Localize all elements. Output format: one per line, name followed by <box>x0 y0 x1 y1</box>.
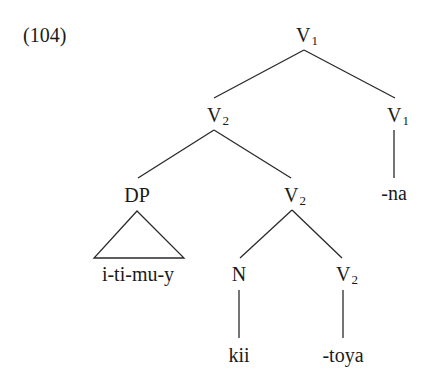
edge-root-to-v1 <box>304 50 395 98</box>
edge-root-to-v2 <box>214 50 304 98</box>
edge-inner-v2-to-n <box>240 210 292 258</box>
terminal-toya: -toya <box>322 345 363 365</box>
tree-edges <box>0 0 439 386</box>
dp-triangle <box>94 211 184 258</box>
node-subscript: 1 <box>402 113 409 128</box>
terminal-kii: kii <box>228 345 249 365</box>
node-root-v1: V1 <box>296 25 318 45</box>
edge-v2-to-inner-v2 <box>214 130 291 178</box>
node-lower-v2: V2 <box>336 264 358 284</box>
example-number: (104) <box>23 25 66 45</box>
syntax-tree-diagram: (104) V1 V2 V1 -na DP V2 i-ti-mu-y N V2 … <box>0 0 439 386</box>
node-subscript: 2 <box>299 193 306 208</box>
node-v2: V2 <box>207 105 229 125</box>
node-right-v1: V1 <box>387 105 409 125</box>
node-subscript: 2 <box>351 272 358 287</box>
terminal-na: -na <box>381 183 407 203</box>
terminal-itimuy: i-ti-mu-y <box>102 264 174 284</box>
node-subscript: 2 <box>222 113 229 128</box>
edge-v2-to-dp <box>138 130 214 178</box>
edge-inner-v2-to-lower-v2 <box>292 210 342 258</box>
node-subscript: 1 <box>311 33 318 48</box>
node-category: V <box>296 24 310 46</box>
node-n: N <box>232 264 246 284</box>
node-inner-v2: V2 <box>284 185 306 205</box>
node-category: V <box>336 263 350 285</box>
node-category: V <box>207 104 221 126</box>
node-category: V <box>284 184 298 206</box>
node-dp: DP <box>124 185 150 205</box>
node-category: V <box>387 104 401 126</box>
